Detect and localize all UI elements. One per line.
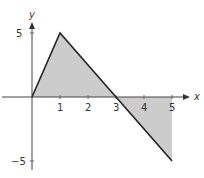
y-axis-label: y bbox=[28, 9, 36, 20]
x-axis-label: x bbox=[193, 91, 200, 102]
y-tick-label: −5 bbox=[11, 156, 26, 167]
x-tick-label: 4 bbox=[141, 102, 147, 113]
x-tick-label: 5 bbox=[169, 102, 175, 113]
chart-svg: x y 1 2 3 4 5 5 −5 bbox=[0, 0, 204, 178]
chart: x y 1 2 3 4 5 5 −5 bbox=[0, 0, 204, 178]
x-tick-label: 1 bbox=[57, 102, 63, 113]
y-tick-label: 5 bbox=[16, 28, 22, 39]
x-tick-label: 3 bbox=[113, 102, 119, 113]
y-axis-arrow-icon bbox=[29, 22, 35, 29]
x-axis-arrow-icon bbox=[183, 94, 190, 100]
x-tick-label: 2 bbox=[85, 102, 91, 113]
